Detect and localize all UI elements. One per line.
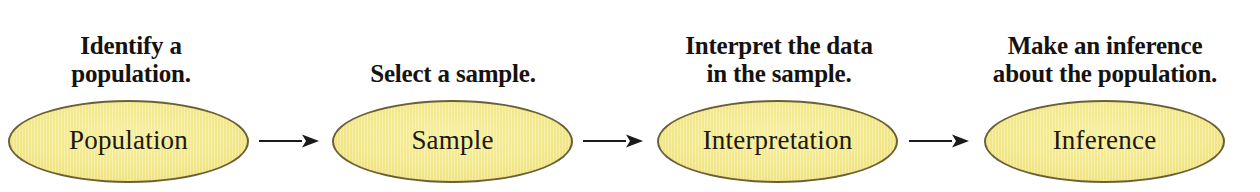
caption-line: Make an inference [955,32,1255,60]
step-caption-select-sample: Select a sample. [322,60,584,88]
caption-line: Select a sample. [322,60,584,88]
node-label: Population [69,127,188,154]
node-population: Population [8,100,249,183]
step-caption-identify-population: Identify a population. [0,32,262,89]
caption-line: in the sample. [648,60,910,88]
statistics-process-diagram: Identify a population. Select a sample. … [0,0,1260,192]
arrow-right-icon [908,130,970,152]
step-caption-make-inference: Make an inference about the population. [955,32,1255,89]
node-label: Interpretation [703,127,853,154]
step-caption-interpret-data: Interpret the data in the sample. [648,32,910,89]
caption-line: Identify a [0,32,262,60]
caption-line: Interpret the data [648,32,910,60]
node-interpretation: Interpretation [657,100,898,183]
node-label: Sample [411,127,493,154]
node-sample: Sample [332,100,573,183]
caption-line: population. [0,60,262,88]
arrow-right-icon [582,130,644,152]
arrow-right-icon [258,130,320,152]
node-label: Inference [1053,127,1157,154]
node-inference: Inference [984,100,1225,183]
caption-line: about the population. [955,60,1255,88]
